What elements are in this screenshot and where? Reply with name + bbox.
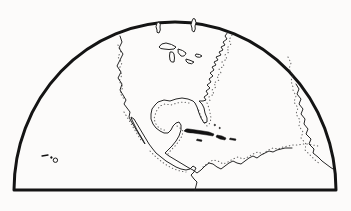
- jamaica-island: [197, 139, 203, 142]
- lake-michigan: [170, 52, 175, 63]
- coastlines: [117, 32, 333, 190]
- cuba-island: [184, 129, 214, 136]
- hudson-inlet-east: [191, 18, 196, 32]
- lake-superior: [159, 43, 176, 50]
- africa-edge-coastline: [296, 84, 333, 169]
- hawaii-dash-island: [42, 155, 48, 156]
- atlantic-coast-stipple: [198, 35, 232, 126]
- pacific-coastline: [117, 36, 197, 190]
- bahamas-specks: [214, 124, 220, 129]
- puerto-rico-island: [230, 138, 237, 141]
- hawaii-circle-island: [53, 158, 57, 162]
- lake-huron: [178, 49, 186, 56]
- hawaiian-islands: [42, 155, 58, 162]
- hawaii-dot-island: [51, 157, 53, 159]
- great-lakes: [159, 43, 202, 64]
- lake-ontario: [195, 54, 202, 57]
- hemisphere-map-canvas: [0, 0, 351, 211]
- caribbean-islands: [184, 124, 236, 141]
- lake-erie: [186, 59, 194, 64]
- hispaniola-island: [216, 135, 226, 140]
- hudson-inlet-west: [156, 22, 160, 33]
- hemisphere-map-figure: [0, 0, 351, 211]
